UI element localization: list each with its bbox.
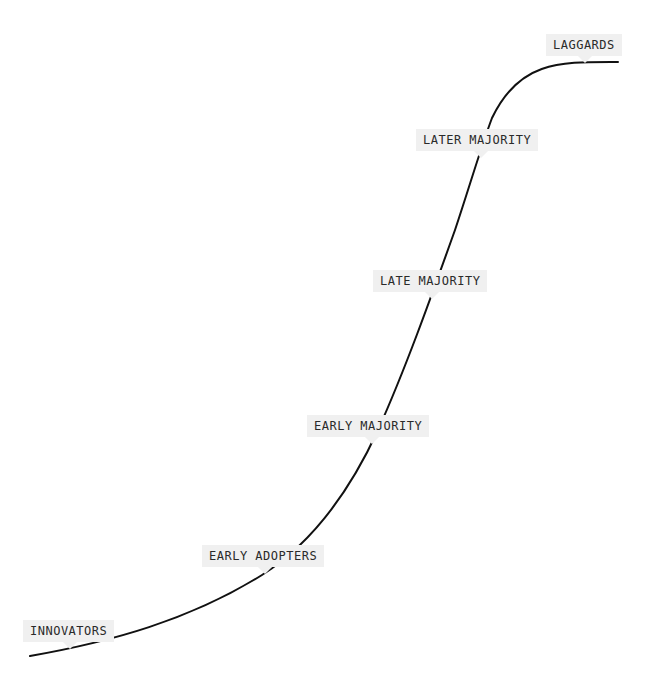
stage-label-laggards: LAGGARDS: [546, 34, 622, 56]
stage-label-later-majority: LATER MAJORITY: [416, 129, 538, 151]
stage-label-innovators: INNOVATORS: [23, 620, 114, 642]
stage-label-early-majority: EARLY MAJORITY: [307, 415, 429, 437]
adoption-s-curve: [0, 0, 654, 699]
stage-label-late-majority: LATE MAJORITY: [373, 270, 487, 292]
stage-label-early-adopters: EARLY ADOPTERS: [202, 545, 324, 567]
